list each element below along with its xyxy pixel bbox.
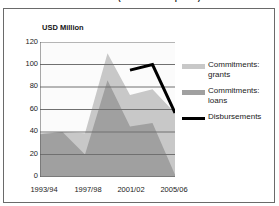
y-tick-80: 80 <box>12 82 38 90</box>
chart-frame: USD Million 120 100 80 60 40 20 0 1993/9… <box>3 8 275 203</box>
x-tick-1: 1993/94 <box>21 185 67 194</box>
chart-canvas <box>40 42 175 177</box>
x-tick-4: 2005/06 <box>151 185 197 194</box>
legend-label-loans: Commitments: loans <box>208 86 260 105</box>
plot-area <box>40 42 175 177</box>
y-tick-60: 60 <box>12 105 38 113</box>
x-tick-2: 1997/98 <box>65 185 111 194</box>
y-axis-title: USD Million <box>42 23 84 32</box>
legend-label-loans-line2: loans <box>208 96 227 105</box>
legend-label-disbursements: Disbursements <box>208 112 261 122</box>
y-tick-120: 120 <box>12 38 38 46</box>
legend-item-disbursements: Disbursements <box>182 112 279 122</box>
legend-swatch-grants <box>182 64 205 69</box>
legend-swatch-disbursements <box>182 117 205 120</box>
x-tick-3: 2001/02 <box>108 185 154 194</box>
x-axis: 1993/94 1997/98 2001/02 2005/06 <box>4 185 204 199</box>
legend-swatch-loans <box>182 90 205 95</box>
legend-label-grants-line1: Commitments: <box>208 60 260 69</box>
legend-label-grants-line2: grants <box>208 70 230 79</box>
legend-item-commitments-loans: Commitments: loans <box>182 86 279 105</box>
plot-wrapper: USD Million 120 100 80 60 40 20 0 1993/9… <box>4 9 276 204</box>
y-tick-40: 40 <box>12 127 38 135</box>
y-tick-100: 100 <box>12 60 38 68</box>
y-axis: 120 100 80 60 40 20 0 <box>8 9 38 204</box>
chart-screenshot: 1990-2006 (2006 constant prices) USD Mil… <box>0 0 279 206</box>
legend-item-commitments-grants: Commitments: grants <box>182 60 279 79</box>
legend-label-loans-line1: Commitments: <box>208 86 260 95</box>
legend-label-grants: Commitments: grants <box>208 60 260 79</box>
y-tick-20: 20 <box>12 150 38 158</box>
chart-legend: Commitments: grants Commitments: loans D… <box>182 60 279 129</box>
chart-title: 1990-2006 (2006 constant prices) <box>0 0 279 2</box>
y-tick-0: 0 <box>12 172 38 180</box>
